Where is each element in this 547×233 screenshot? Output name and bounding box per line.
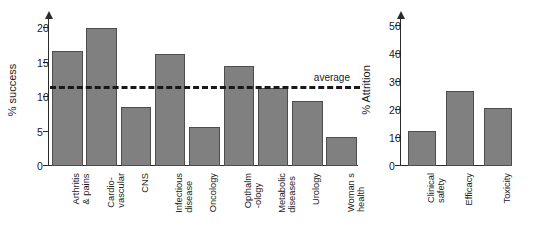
y-tick-label: 20 [389,104,391,116]
y-axis-title-attrition: % Attrition [360,45,372,135]
x-tick-label: Woman s health [346,173,367,212]
x-tick-label: Clinical safety [426,173,447,203]
bar-slot: Infectious disease [155,18,186,166]
x-tick-label: Cardio- vascular [106,173,127,208]
bar-slot: Arthritis & pains [52,18,83,166]
x-tick-label: Toxicity [502,173,512,203]
plot-area-success: % success 05101520 Arthritis & painsCard… [48,18,358,166]
bar [326,137,357,166]
bar [484,108,512,166]
bar-slot: Woman s health [326,18,357,166]
bar-slot: Efficacy [446,18,474,166]
bar [86,28,117,166]
average-line [50,86,360,89]
bar [408,131,436,166]
y-tick-label: 20 [37,22,39,34]
chart-panel-attrition: % Attrition 01020304050 Clinical safetyE… [372,0,547,233]
bar-slot: Clinical safety [408,18,436,166]
x-tick-label: Urology [311,173,321,205]
bar-slot: Oncology [189,18,220,166]
y-tick-label: 10 [389,132,391,144]
figure-root: % success 05101520 Arthritis & painsCard… [0,0,547,233]
bar-group-success: Arthritis & painsCardio- vascularCNSInfe… [48,18,358,166]
y-tick-label: 5 [37,126,39,138]
y-tick-label: 15 [37,57,39,69]
y-axis-title-success: % success [6,45,18,135]
bar-slot: Cardio- vascular [86,18,117,166]
bar-group-attrition: Clinical safetyEfficacyToxicity [400,18,512,166]
bar-slot: Opthalm -ology [224,18,255,166]
bar-slot: CNS [121,18,152,166]
average-line-label: average [314,72,350,83]
x-tick-label: Infectious disease [174,173,195,213]
x-tick-label: Metabolic diseases [277,173,298,213]
y-tick-label: 40 [389,48,391,60]
bar [121,107,152,166]
x-tick-label: CNS [140,173,150,193]
bar [52,51,83,166]
y-tick-label: 50 [389,20,391,32]
bar [224,66,255,166]
bar [258,88,289,166]
bar-slot: Urology [292,18,323,166]
y-tick-label: 0 [389,160,391,172]
x-tick-label: Arthritis & pains [71,173,92,205]
x-tick-label: Oncology [208,173,218,212]
y-tick-label: 10 [37,91,39,103]
bar [189,127,220,166]
x-tick-label: Opthalm -ology [243,173,264,208]
y-tick-label: 30 [389,76,391,88]
chart-panel-success: % success 05101520 Arthritis & painsCard… [0,0,372,233]
plot-area-attrition: % Attrition 01020304050 Clinical safetyE… [400,18,512,166]
bar [292,101,323,166]
bar [446,91,474,166]
bar-slot: Metabolic diseases [258,18,289,166]
x-tick-label: Efficacy [464,173,474,205]
bar-slot: Toxicity [484,18,512,166]
y-tick-label: 0 [37,160,39,172]
bar [155,54,186,166]
